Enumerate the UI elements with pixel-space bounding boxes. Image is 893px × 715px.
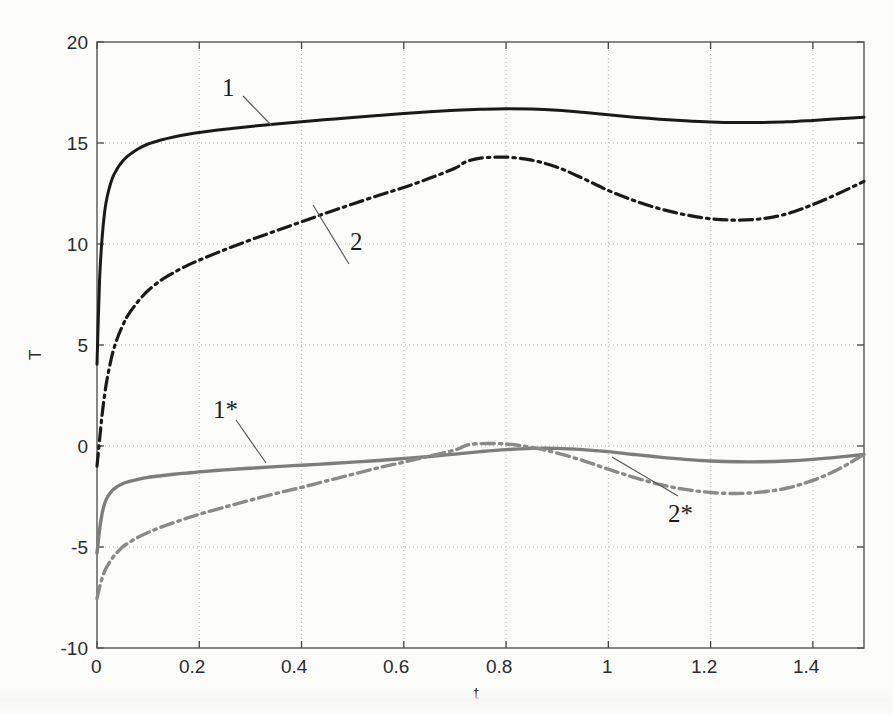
curve-1-star	[97, 448, 864, 553]
ytick-label-minus5: -5	[48, 537, 88, 559]
xtick-label-0.2: 0.2	[179, 656, 205, 678]
figure-container: 20 15 10 5 0 -5 -10 0 0.2 0.4 0.6 0.8 1 …	[0, 0, 893, 715]
curve-2-star	[97, 444, 864, 599]
xtick-label-1: 1	[602, 656, 613, 678]
xtick-label-0.4: 0.4	[281, 656, 307, 678]
annotation-leader-lines	[236, 96, 678, 496]
curve-label-1-star: 1*	[213, 396, 238, 424]
data-curves	[97, 109, 864, 599]
leader-1-star	[236, 420, 266, 463]
ytick-label-10: 10	[48, 234, 88, 256]
xtick-label-1.4: 1.4	[793, 656, 819, 678]
xtick-label-0: 0	[91, 656, 102, 678]
ytick-label-5: 5	[48, 335, 88, 357]
curve-label-2: 2	[350, 228, 363, 256]
plot-frame	[97, 42, 864, 648]
curve-1	[97, 109, 864, 365]
curve-label-1: 1	[222, 74, 235, 102]
plot-canvas	[0, 0, 893, 715]
scan-artifact	[0, 690, 893, 715]
curve-label-2-star: 2*	[668, 500, 693, 528]
xtick-label-1.2: 1.2	[691, 656, 717, 678]
axis-ticks	[97, 42, 864, 648]
y-axis-title: T	[26, 350, 46, 360]
xtick-label-0.6: 0.6	[383, 656, 409, 678]
xtick-label-0.8: 0.8	[486, 656, 512, 678]
gridlines	[97, 42, 864, 648]
ytick-label-0: 0	[48, 436, 88, 458]
leader-2	[313, 205, 349, 264]
ytick-label-15: 15	[48, 133, 88, 155]
ytick-label-minus10: -10	[40, 638, 88, 660]
leader-1	[243, 96, 272, 126]
leader-2-star	[612, 457, 678, 496]
ytick-label-20: 20	[48, 32, 88, 54]
